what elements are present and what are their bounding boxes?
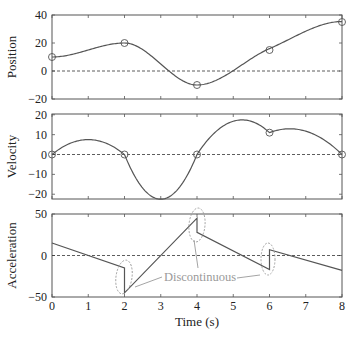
annotation-leader-line xyxy=(194,240,198,268)
y-axis-label: Position xyxy=(4,35,19,78)
y-axis-label: Velocity xyxy=(4,134,19,178)
x-axis-label: Time (s) xyxy=(175,314,219,329)
y-tick-label: −10 xyxy=(28,167,47,181)
x-tick-label: 3 xyxy=(158,299,164,313)
y-tick-label: −20 xyxy=(28,187,47,201)
x-tick-label: 5 xyxy=(230,299,236,313)
y-tick-label: 20 xyxy=(35,108,47,122)
x-tick-label: 6 xyxy=(267,299,273,313)
y-tick-label: 0 xyxy=(41,249,47,263)
annotation-text: Discontinuous xyxy=(164,270,236,284)
axes-frame xyxy=(52,114,342,199)
velocity-subplot: −20−1001020Velocity xyxy=(4,108,346,201)
x-tick-label: 4 xyxy=(194,299,200,313)
acceleration-subplot: −50050Acceleration012345678 xyxy=(4,207,345,313)
x-tick-label: 1 xyxy=(85,299,91,313)
velocity-curve xyxy=(52,120,342,199)
y-tick-label: 0 xyxy=(41,148,47,162)
y-tick-label: −20 xyxy=(28,92,47,106)
position-subplot: −2002040Position xyxy=(4,8,346,106)
position-curve xyxy=(52,22,342,85)
discontinuity-ellipse xyxy=(261,243,275,275)
x-tick-label: 2 xyxy=(122,299,128,313)
y-tick-label: 20 xyxy=(35,36,47,50)
annotation-leader-line xyxy=(237,275,260,278)
motion-profile-chart: −2002040Position −20−1001020Velocity −50… xyxy=(0,0,357,339)
y-tick-label: 0 xyxy=(41,64,47,78)
x-tick-label: 8 xyxy=(339,299,345,313)
y-tick-label: 40 xyxy=(35,8,47,22)
y-tick-label: 10 xyxy=(35,128,47,142)
y-tick-label: −50 xyxy=(28,290,47,304)
x-tick-label: 7 xyxy=(303,299,309,313)
axes-frame xyxy=(52,15,342,99)
x-tick-label: 0 xyxy=(49,299,55,313)
y-axis-label: Acceleration xyxy=(4,222,19,289)
y-tick-label: 50 xyxy=(35,207,47,221)
